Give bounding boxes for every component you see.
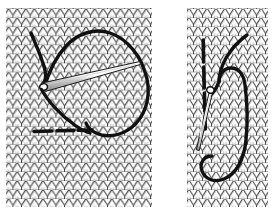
stitch-diagram-svg (0, 0, 277, 215)
panel-right (187, 8, 268, 207)
panel-left (6, 8, 152, 207)
figure-root (0, 0, 277, 215)
